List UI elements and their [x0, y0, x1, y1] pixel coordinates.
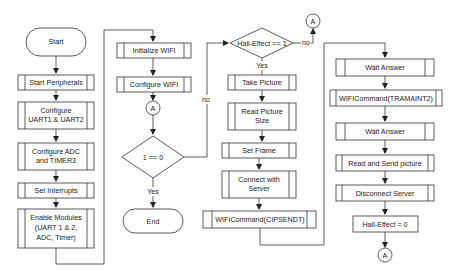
end-terminal: End [123, 209, 183, 233]
read-send-picture-label: Read and Send picture [348, 159, 422, 168]
take-picture-label: Take Picture [242, 78, 282, 87]
configure-uart-process: Configure UART1 & UART2 [18, 102, 94, 129]
enable-modules-label-1: Enable Modules [30, 213, 82, 222]
connector-a-2-label: A [311, 17, 316, 26]
set-interrupts-process: Set Interrupts [18, 183, 94, 198]
decision-loop: 1 == 0 [122, 136, 184, 178]
initialize-wifi-label: Initialize WIFI [132, 46, 175, 55]
configure-uart-label-1: Configure [40, 106, 71, 115]
start-label: Start [48, 37, 63, 46]
wait-answer-1-process: Wait Answer [336, 59, 434, 76]
hall-reset-label: Hall-Effect = 0 [362, 220, 407, 229]
decision-loop-label: 1 == 0 [143, 153, 163, 162]
initialize-wifi-process: Initialize WIFI [117, 43, 191, 58]
start-peripherals-process: Start Peripherals [18, 75, 94, 90]
flowchart-canvas: Start Start Peripherals Configure UART1 … [0, 0, 458, 279]
read-send-picture-process: Read and Send picture [336, 155, 434, 171]
configure-wifi-process: Configure WIFI [117, 77, 191, 92]
wifi-tramaint2-process: WIFICommand(TRAMAINT2) [330, 90, 442, 106]
set-frame-process: Set Frame [222, 143, 296, 158]
connector-a-3: A [378, 248, 392, 262]
enable-modules-label-3: ADC, Timer) [36, 233, 76, 242]
hall-yes-label: Yes [256, 62, 268, 69]
hall-reset-process: Hall-Effect = 0 [353, 216, 418, 232]
configure-uart-label-2: UART1 & UART2 [28, 115, 84, 124]
read-picture-size-label-1: Read Picture [241, 107, 283, 116]
wifi-cipsendt-label: WIFICommand(CIPSENDT) [215, 215, 304, 224]
take-picture-process: Take Picture [228, 75, 296, 90]
disconnect-server-process: Disconnect Server [336, 185, 434, 201]
read-picture-size-label-2: Size [255, 116, 269, 125]
wifi-cipsendt-process: WIFICommand(CIPSENDT) [203, 211, 316, 228]
configure-adc-label-2: and TIMER3 [36, 156, 76, 165]
connector-a-1-label: A [151, 104, 156, 113]
wait-answer-2-process: Wait Answer [336, 123, 434, 140]
end-label: End [147, 217, 160, 226]
connector-a-3-label: A [383, 251, 388, 260]
disconnect-server-label: Disconnect Server [356, 189, 415, 198]
hall-no-label: no [302, 39, 310, 46]
set-interrupts-label: Set Interrupts [34, 186, 78, 195]
wait-answer-2-label: Wait Answer [365, 127, 405, 136]
connector-a-2: A [306, 14, 320, 28]
connect-server-process: Connect with Server [222, 171, 296, 198]
wifi-tramaint2-label: WIFICommand(TRAMAINT2) [339, 94, 433, 103]
enable-modules-label-2: (UART 1 & 2, [35, 223, 77, 232]
set-frame-label: Set Frame [242, 146, 276, 155]
decision-hall-effect: Hall-Effect == 1 [230, 28, 293, 58]
connect-server-label-2: Server [248, 184, 270, 193]
connector-a-1: A [146, 101, 160, 115]
configure-wifi-label: Configure WIFI [130, 80, 178, 89]
configure-adc-process: Configure ADC and TIMER3 [18, 143, 94, 170]
loop-yes-label: Yes [147, 188, 159, 195]
decision-hall-label: Hall-Effect == 1 [237, 39, 286, 48]
wait-answer-1-label: Wait Answer [365, 63, 405, 72]
enable-modules-process: Enable Modules (UART 1 & 2, ADC, Timer) [18, 209, 94, 248]
start-terminal: Start [26, 28, 86, 56]
connect-server-label-1: Connect with [238, 175, 280, 184]
configure-adc-label-1: Configure ADC [32, 147, 80, 156]
read-picture-size-process: Read Picture Size [228, 103, 296, 130]
start-peripherals-label: Start Peripherals [29, 78, 83, 87]
loop-no-label: no [202, 96, 210, 103]
